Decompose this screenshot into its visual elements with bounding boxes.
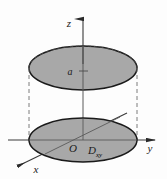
height-label: a (68, 66, 73, 77)
x-axis-label: x (33, 163, 39, 175)
z-axis-label: z (66, 17, 72, 29)
y-axis-label: y (147, 142, 153, 154)
base-region-subscript: xy (95, 151, 103, 159)
cylinder-region-diagram: z y x a O D xy (0, 0, 167, 179)
figure-container: z y x a O D xy (0, 0, 167, 179)
origin-label: O (69, 142, 77, 154)
base-region-letter: D (87, 144, 96, 156)
